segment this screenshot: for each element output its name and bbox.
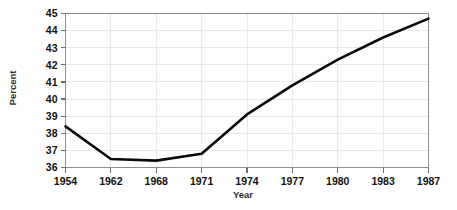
x-tick-label: 1954 (54, 175, 78, 187)
x-tick-label: 1968 (145, 175, 169, 187)
chart-canvas: 36373839404142434445 1954196219681971197… (0, 0, 457, 210)
x-axis-title: Year (233, 189, 253, 200)
x-tick-label: 1980 (326, 175, 350, 187)
y-tick-label: 38 (46, 127, 58, 139)
x-axis-tick-labels: 195419621968197119741977198019831987 (54, 175, 441, 187)
y-axis-tick-labels: 36373839404142434445 (46, 7, 58, 173)
x-tick-label: 1983 (371, 175, 395, 187)
line-chart-figure: 36373839404142434445 1954196219681971197… (0, 0, 457, 210)
y-tick-label: 44 (46, 24, 58, 36)
y-tick-label: 40 (46, 93, 58, 105)
x-tick-label: 1977 (281, 175, 305, 187)
y-axis-ticks (61, 14, 66, 168)
x-axis-ticks (66, 168, 429, 173)
y-tick-label: 39 (46, 110, 58, 122)
vertical-gridlines (111, 14, 383, 168)
y-tick-label: 41 (46, 76, 58, 88)
y-tick-label: 43 (46, 42, 58, 54)
y-axis-title: Percent (7, 70, 18, 106)
y-tick-label: 36 (46, 161, 58, 173)
x-tick-label: 1974 (235, 175, 259, 187)
y-tick-label: 45 (46, 7, 58, 19)
x-tick-label: 1987 (417, 175, 441, 187)
y-tick-label: 37 (46, 144, 58, 156)
y-tick-label: 42 (46, 59, 58, 71)
x-tick-label: 1971 (190, 175, 214, 187)
x-tick-label: 1962 (99, 175, 123, 187)
